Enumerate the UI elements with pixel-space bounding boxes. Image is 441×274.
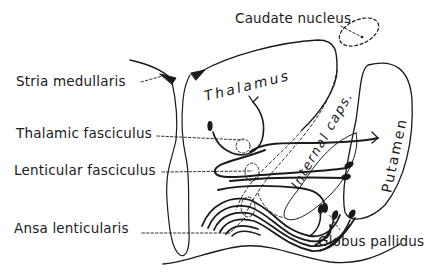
- label-stria-medullaris: Stria medullaris: [16, 75, 126, 89]
- label-globus-pallidus: Globus pallidus: [318, 235, 424, 249]
- label-thalamic-fasciculus: Thalamic fasciculus: [16, 127, 152, 141]
- label-lenticular-fasciculus: Lenticular fasciculus: [14, 164, 156, 178]
- label-caudate-nucleus: Caudate nucleus: [235, 12, 351, 26]
- third-ventricle-outline: [167, 75, 190, 256]
- anatomy-diagram: Caudate nucleus Stria medullaris Thalami…: [0, 0, 441, 274]
- thalamic-fasciculus-leader: [157, 136, 243, 140]
- thalamic-fasciculus-marker: [236, 139, 250, 153]
- label-ansa-lenticularis: Ansa lenticularis: [14, 222, 129, 236]
- stria-right-knob: [191, 70, 205, 80]
- lenticular-fasciculus-leader: [162, 171, 252, 172]
- thalamic-fiber: [213, 102, 264, 155]
- stria-left-knob: [160, 74, 176, 84]
- stria-leader-line: [141, 75, 166, 82]
